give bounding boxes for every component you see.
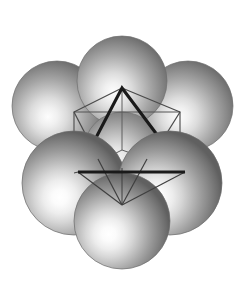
sphere-packing-figure: Hexagonal close-packed sphere cluster wi… (0, 0, 245, 286)
figure-root: Hexagonal close-packed sphere cluster wi… (0, 0, 245, 286)
